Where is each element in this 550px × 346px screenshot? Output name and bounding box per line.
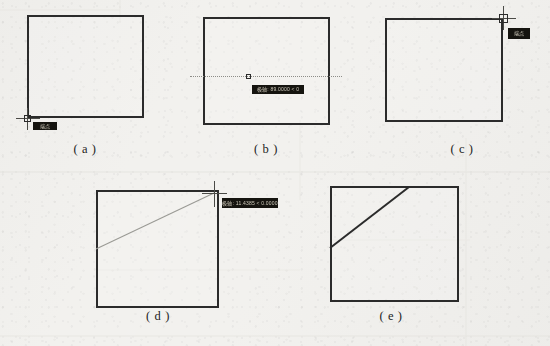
midpoint-snap-marker-b — [246, 74, 251, 79]
caption-a: ( a ) — [65, 142, 105, 157]
caption-b: ( b ) — [246, 142, 286, 157]
cad-square-d — [96, 190, 219, 308]
cad-square-e — [330, 186, 459, 302]
polar-tracking-line-b — [190, 76, 342, 77]
snap-tooltip-a: 端点 — [33, 122, 57, 130]
crosshair-horizontal-d — [202, 193, 227, 194]
crosshair-vertical-d — [214, 181, 215, 207]
endpoint-snap-marker-c — [499, 14, 508, 23]
cad-square-b — [203, 17, 330, 125]
snap-tooltip-c: 端点 — [508, 28, 530, 39]
endpoint-snap-marker-a — [24, 115, 31, 122]
cad-square-c — [385, 18, 503, 122]
snap-tooltip-b: 极轴: 89.0000 < 0 — [252, 85, 304, 94]
caption-d: ( d ) — [138, 309, 178, 324]
cad-square-a — [27, 15, 144, 118]
caption-e: ( e ) — [371, 309, 411, 324]
snap-tooltip-d: 极轴: 11.4385 < 0.0000 — [222, 198, 278, 208]
figure-container: 端点 极轴: 89.0000 < 0 端点 极轴: 11.4385 < 0.00… — [0, 0, 550, 346]
caption-c: ( c ) — [442, 142, 482, 157]
